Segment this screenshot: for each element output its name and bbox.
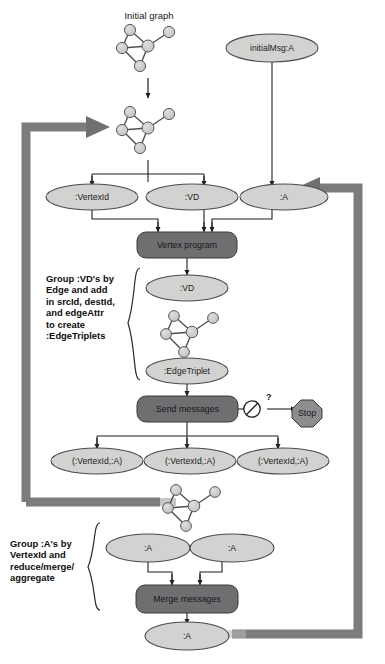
question-mark-label: ? bbox=[266, 392, 272, 403]
diagram-canvas: Initial graph initialMsg:A :VertexId :VD… bbox=[0, 0, 385, 664]
initialmsg-label: initialMsg:A bbox=[226, 41, 318, 55]
a-final-label: :A bbox=[145, 629, 229, 643]
connector-a-to-merge bbox=[148, 562, 222, 580]
iterated-graph-cluster bbox=[116, 106, 174, 153]
annotation-group-vd: Group :VD's by Edge and add in srcId, de… bbox=[46, 273, 138, 342]
annotation-group-a: Group :A's by VertexId and reduce/merge/… bbox=[10, 538, 98, 584]
triplet-graph-cluster bbox=[161, 311, 219, 358]
a-left-label: :A bbox=[106, 541, 190, 555]
message-graph-cluster bbox=[163, 485, 221, 532]
vd-after-label: :VD bbox=[146, 281, 228, 295]
initial-graph-label: Initial graph bbox=[104, 8, 194, 22]
send-messages-label: Send messages bbox=[137, 402, 238, 416]
merge-messages-label: Merge messages bbox=[136, 592, 238, 606]
vertexid-label: :VertexId bbox=[46, 190, 138, 204]
vertexid-a-3-label: (:VertexId,:A) bbox=[237, 454, 329, 468]
edgetriplet-label: :EdgeTriplet bbox=[146, 364, 228, 378]
a-right-label: :A bbox=[190, 541, 274, 555]
no-entry-icon bbox=[244, 401, 260, 417]
vd-label: :VD bbox=[146, 190, 238, 204]
a-label: :A bbox=[240, 190, 328, 204]
connector-to-vertex-program bbox=[92, 209, 272, 228]
vertexid-a-1-label: (:VertexId,:A) bbox=[51, 454, 143, 468]
vertex-program-label: Vertex program bbox=[137, 238, 237, 252]
connector-graph-fanout bbox=[92, 160, 204, 182]
vertexid-a-2-label: (:VertexId,:A) bbox=[144, 454, 236, 468]
stop-label: Stop bbox=[292, 406, 322, 420]
initial-graph-cluster bbox=[116, 24, 174, 71]
